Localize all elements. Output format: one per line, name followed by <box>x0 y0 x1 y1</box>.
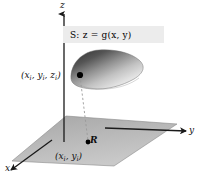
z-axis-label: z <box>60 1 65 10</box>
plane-point-close: ) <box>79 151 83 161</box>
surface-point-sub-i1: i <box>30 74 32 82</box>
plane-point-label: (xi, yi) <box>55 152 82 161</box>
surface-point-open: (x <box>21 70 30 80</box>
surface-equation-label: S: z = g(x, y) <box>70 30 132 40</box>
x-axis-label: x <box>5 164 10 173</box>
surface-S <box>71 50 143 89</box>
surface-point-mid-z: , z <box>45 70 55 80</box>
surface-point-sub-i2: i <box>43 74 45 82</box>
math-figure-surface-over-region: S: z = g(x, y) z y x (xi, yi, zi) (xi, y… <box>0 0 202 176</box>
plane-point-sub-i2: i <box>77 155 79 163</box>
plane-point-mid-y: , y <box>66 151 77 161</box>
surface-point-label: (xi, yi, zi) <box>21 71 61 80</box>
surface-point-close: ) <box>57 70 61 80</box>
surface-point-mid-y: , y <box>32 70 43 80</box>
plane-point-open: (x <box>55 151 64 161</box>
region-label-R: R <box>90 136 97 145</box>
plane-point-sub-i1: i <box>64 155 66 163</box>
y-axis-label: y <box>189 126 194 135</box>
surface-point-marker <box>77 72 83 78</box>
surface-point-sub-i3: i <box>55 74 57 82</box>
surface-patch <box>71 50 143 89</box>
